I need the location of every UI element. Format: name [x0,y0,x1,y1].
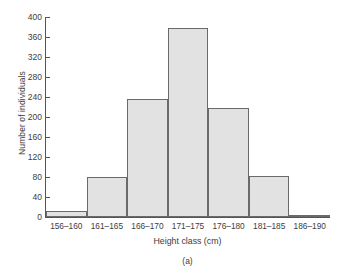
x-axis-title: Height class (cm) [45,236,330,246]
y-tick-label: 0 [37,213,42,222]
y-tick-label: 40 [33,193,42,202]
bar-176–180 [208,108,249,217]
bar-cell [127,17,168,217]
bar-cell [168,17,209,217]
y-tick-label: 200 [28,113,42,122]
x-tick-label: 186–190 [289,221,330,231]
y-tick-label: 400 [28,13,42,22]
y-tick-label: 80 [33,173,42,182]
y-tick-label: 120 [28,153,42,162]
y-axis-title: Number of individuals [17,28,27,198]
bar-cell [249,17,290,217]
x-axis-line [45,217,330,218]
x-axis-tick-labels: 156–160161–165166–170171–175176–180181–1… [46,221,330,231]
y-tick-label: 320 [28,53,42,62]
x-tick-label: 176–180 [208,221,249,231]
figure-caption: (a) [45,256,330,266]
bar-cell [87,17,128,217]
bar-series [46,17,330,217]
plot-area: 04080120160200240280320360400 [45,17,330,218]
bar-cell [46,17,87,217]
bar-cell [208,17,249,217]
x-tick-label: 161–165 [87,221,128,231]
bar-156–160 [46,211,87,217]
y-tick-label: 280 [28,73,42,82]
y-tick-label: 240 [28,93,42,102]
x-tick-label: 181–185 [249,221,290,231]
bar-171–175 [168,28,209,218]
x-tick-label: 171–175 [168,221,209,231]
histogram-figure: Number of individuals 040801201602002402… [0,0,348,275]
y-tick-mark [46,217,50,218]
bar-cell [289,17,330,217]
x-tick-label: 166–170 [127,221,168,231]
x-tick-label: 156–160 [46,221,87,231]
y-tick-label: 160 [28,133,42,142]
bar-166–170 [127,99,168,218]
bar-186–190 [289,215,330,217]
bar-161–165 [87,177,128,217]
bar-181–185 [249,176,290,217]
y-tick-label: 360 [28,33,42,42]
